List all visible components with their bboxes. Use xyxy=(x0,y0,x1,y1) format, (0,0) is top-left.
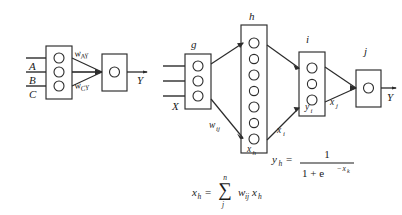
right-output-arrowhead xyxy=(392,86,397,89)
sum-term-x-sub: h xyxy=(258,192,262,201)
left-input-label-c: C xyxy=(29,88,37,100)
left-input-node xyxy=(54,67,64,77)
sum-lhs-sub: h xyxy=(198,192,202,201)
sigmoid-exp-base: x xyxy=(342,164,347,173)
sigmoid-numerator: 1 xyxy=(324,148,330,160)
left-output-label: Y xyxy=(137,74,145,86)
sigmoid-lhs-base: y xyxy=(271,153,277,165)
weight-ay-sub: AY xyxy=(79,52,90,61)
sum-lower-limit: j xyxy=(221,200,224,209)
figure-canvas: A B C w AY w CY Y xyxy=(0,0,402,215)
left-output-node xyxy=(110,67,120,77)
layer-j-node xyxy=(364,83,374,93)
xj-base: x xyxy=(329,97,335,107)
layer-h-node xyxy=(249,134,259,144)
sigmoid-equals: = xyxy=(286,153,292,165)
xi-base: x xyxy=(276,125,282,135)
wij-sub: ij xyxy=(216,125,220,133)
layer-h-node xyxy=(249,70,259,80)
layer-g-label: g xyxy=(191,38,197,50)
layer-g-side-label: X xyxy=(171,100,180,112)
layer-j-label: j xyxy=(362,45,367,57)
xi-sub: i xyxy=(283,130,285,138)
layer-h-node xyxy=(249,118,258,127)
left-input-label-b: B xyxy=(29,74,36,86)
layer-h-node xyxy=(249,102,259,112)
sigmoid-denominator: 1 + e xyxy=(302,167,324,179)
layer-h-label: h xyxy=(249,10,255,22)
xj-sub: j xyxy=(335,102,338,110)
layer-g-node xyxy=(193,91,203,101)
equation-sigmoid: y h = 1 1 + e − x k xyxy=(271,148,354,179)
yi-sub: i xyxy=(311,107,313,115)
sigmoid-lhs-sub: h xyxy=(279,159,283,168)
layer-g-node xyxy=(193,61,203,71)
right-output-label: Y xyxy=(387,91,395,103)
left-input-node xyxy=(54,81,64,91)
summation-sigma-icon: ∑ xyxy=(218,179,232,201)
right-input-wires xyxy=(163,66,185,96)
sum-term-x: x xyxy=(251,186,257,198)
layer-h-bottom-label: x h xyxy=(246,144,257,157)
layer-h-node xyxy=(249,86,258,95)
layer-h-node xyxy=(249,38,259,48)
sigmoid-exp-sub: k xyxy=(347,168,350,174)
edge-label-wij: w ij xyxy=(209,120,220,133)
sum-lhs-base: x xyxy=(191,186,197,198)
edges-h-to-i xyxy=(267,45,300,140)
wij-base: w xyxy=(209,120,216,130)
layer-i-label: i xyxy=(306,33,309,45)
layer-h-node xyxy=(249,54,258,63)
layer-g-node xyxy=(193,76,203,86)
xh-base: x xyxy=(246,144,252,154)
diagram-svg: A B C w AY w CY Y xyxy=(0,0,402,215)
layer-i-node xyxy=(307,79,316,88)
sum-term-w-sub: ij xyxy=(245,192,249,201)
layer-i-node xyxy=(307,63,317,73)
edge-label-xj: x j xyxy=(329,97,338,110)
left-weight-label-ay: w AY xyxy=(74,48,90,61)
left-diagram: A B C w AY w CY Y xyxy=(26,46,148,100)
yi-base: y xyxy=(304,102,310,112)
left-output-arrowhead xyxy=(143,70,148,73)
left-input-node xyxy=(54,53,64,63)
sigmoid-exp-minus: − xyxy=(337,164,341,173)
equation-weighted-sum: x h = n ∑ j w ij x h xyxy=(191,173,262,209)
left-weight-label-cy: w CY xyxy=(74,80,91,93)
weight-cy-sub: CY xyxy=(80,84,91,93)
left-input-label-a: A xyxy=(28,60,36,72)
xh-sub: h xyxy=(253,149,257,157)
edge-label-xi: x i xyxy=(276,125,285,138)
right-diagram: g X w ij h x h xyxy=(163,10,397,157)
sum-equals: = xyxy=(205,186,211,198)
